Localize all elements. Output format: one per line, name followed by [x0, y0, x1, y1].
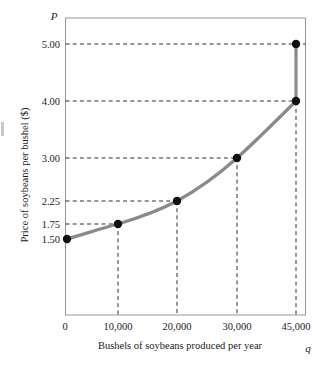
- x-tick-10000: 10,000: [104, 321, 133, 332]
- x-tick-20000: 20,000: [163, 321, 192, 332]
- y-axis-variable: P: [50, 10, 58, 22]
- y-tick-3-00: 3.00: [42, 153, 60, 164]
- plot-frame: [66, 18, 306, 315]
- vertical-guide-lines: [118, 44, 296, 315]
- data-point-20000-2-25: [173, 197, 181, 205]
- y-tick-2-25: 2.25: [42, 196, 60, 207]
- supply-curve: [67, 44, 296, 239]
- x-tick-0: 0: [62, 321, 67, 332]
- data-point-30000-3-00: [233, 154, 241, 162]
- x-axis-variable: q: [305, 342, 311, 354]
- data-point-10000-1-75: [114, 220, 122, 228]
- y-tick-labels: 5.00 4.00 3.00 2.25 1.75 1.50: [42, 39, 60, 245]
- y-axis-caption: Price of soybeans per bushel ($): [19, 107, 31, 243]
- x-tick-30000: 30,000: [223, 321, 252, 332]
- x-tick-45000: 45,000: [282, 321, 311, 332]
- y-tick-4-00: 4.00: [42, 96, 60, 107]
- y-tick-1-50: 1.50: [42, 234, 60, 245]
- data-points: [63, 40, 300, 243]
- y-tick-5-00: 5.00: [42, 39, 60, 50]
- x-tick-labels: 0 10,000 20,000 30,000 45,000: [62, 321, 310, 332]
- data-point-45000-5-00: [292, 40, 300, 48]
- chart-canvas: P 5.00 4.00 3.00 2.25 1.75 1.50 0 10,000…: [0, 0, 328, 370]
- supply-curve-figure: P 5.00 4.00 3.00 2.25 1.75 1.50 0 10,000…: [0, 0, 328, 370]
- y-tick-1-75: 1.75: [42, 219, 60, 230]
- data-point-0-1-50: [63, 235, 71, 243]
- x-axis-caption: Bushels of soybeans produced per year: [98, 340, 263, 351]
- data-point-45000-4-00: [292, 97, 300, 105]
- page-edge-artifact: [1, 122, 4, 136]
